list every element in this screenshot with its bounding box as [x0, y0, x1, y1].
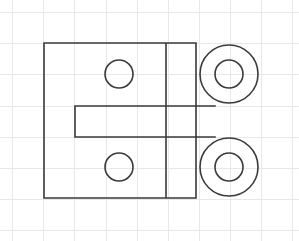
- part-drawing-svg: [0, 0, 299, 241]
- drawing-canvas: [0, 0, 299, 241]
- canvas-background: [0, 0, 299, 241]
